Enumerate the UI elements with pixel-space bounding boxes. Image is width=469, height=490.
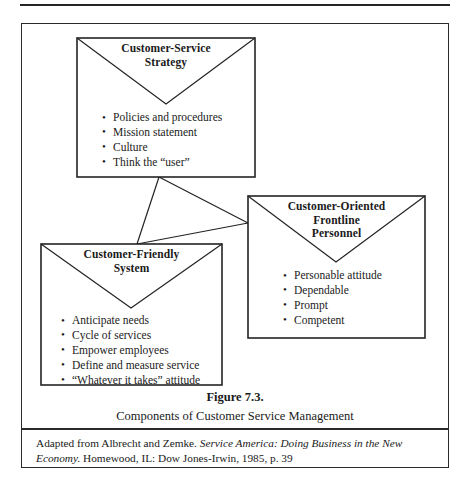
envelope-3-bullet-list: Anticipate needs Cycle of services Empow… <box>61 313 221 388</box>
envelope-3-title: Customer-Friendly System <box>46 248 217 275</box>
source-note-prefix: Adapted from Albrecht and Zemke. <box>36 437 200 449</box>
list-item: Define and measure service <box>61 358 221 373</box>
envelope-1-title: Customer-Service Strategy <box>82 42 250 69</box>
list-item: Personable attitude <box>283 268 423 283</box>
list-item: Dependable <box>283 283 423 298</box>
source-note-suffix: Homewood, IL: Dow Jones-Irwin, 1985, p. … <box>80 452 292 464</box>
list-item: Mission statement <box>102 125 252 140</box>
envelope-1-bullet-list: Policies and procedures Mission statemen… <box>102 110 252 170</box>
top-horizontal-rule <box>20 4 450 6</box>
envelope-1-title-line-2: Strategy <box>82 56 250 70</box>
figure-page: Customer-Service Strategy Policies and p… <box>0 0 469 490</box>
envelope-2-title-line-1: Customer-Oriented <box>253 200 420 214</box>
list-item: Culture <box>102 140 252 155</box>
envelope-2-bullet-list: Personable attitude Dependable Prompt Co… <box>283 268 423 328</box>
envelope-3-title-line-1: Customer-Friendly <box>46 248 217 262</box>
figure-caption: Figure 7.3. Components of Customer Servi… <box>24 390 446 424</box>
list-item: Competent <box>283 313 423 328</box>
list-item: Prompt <box>283 298 423 313</box>
list-item: Empower employees <box>61 343 221 358</box>
envelope-2-title-line-3: Personnel <box>253 227 420 241</box>
envelope-3-title-line-2: System <box>46 262 217 276</box>
list-item: Cycle of services <box>61 328 221 343</box>
list-item: Policies and procedures <box>102 110 252 125</box>
envelope-1-title-line-1: Customer-Service <box>82 42 250 56</box>
envelope-2-title: Customer-Oriented Frontline Personnel <box>253 200 420 241</box>
list-item: “Whatever it takes” attitude <box>61 373 221 388</box>
list-item: Anticipate needs <box>61 313 221 328</box>
envelope-2-title-line-2: Frontline <box>253 214 420 228</box>
source-note-divider <box>21 428 449 430</box>
list-item: Think the “user” <box>102 155 252 170</box>
figure-subtitle: Components of Customer Service Managemen… <box>24 408 446 424</box>
figure-number: Figure 7.3. <box>24 390 446 406</box>
source-note: Adapted from Albrecht and Zemke. Service… <box>36 436 436 466</box>
